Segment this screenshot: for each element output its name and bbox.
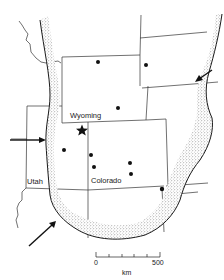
scale-unit-label: km [122, 269, 132, 276]
map-figure: Wyoming Utah Colorado 0 500 km [0, 0, 224, 280]
scale-bar [96, 252, 160, 257]
site-dot [89, 153, 93, 157]
label-utah: Utah [27, 177, 43, 186]
site-dot [129, 172, 133, 176]
site-dot [160, 187, 164, 191]
star-icon [76, 125, 88, 136]
state-boundaries [11, 15, 218, 238]
scale-start-label: 0 [94, 259, 98, 266]
site-dot [128, 161, 132, 165]
site-dots [62, 60, 164, 191]
label-colorado: Colorado [91, 176, 121, 185]
site-dot [116, 106, 120, 110]
stippled-region [40, 14, 222, 239]
west-arrow-icon [10, 137, 46, 143]
label-wyoming: Wyoming [70, 111, 101, 120]
southwest-arrow-icon [29, 221, 56, 246]
scale-end-label: 500 [152, 259, 164, 266]
site-dot [144, 63, 148, 67]
site-dot [92, 165, 96, 169]
site-dot [96, 60, 100, 64]
site-dot [62, 148, 66, 152]
